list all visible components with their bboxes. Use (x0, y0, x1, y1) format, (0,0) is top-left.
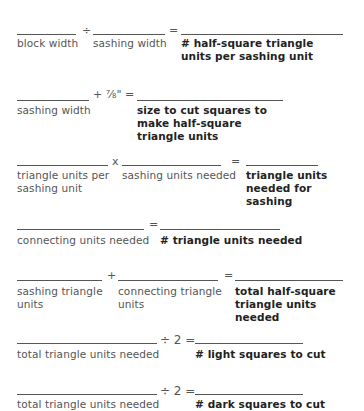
label-total-triangle-units: total half-square triangle units needed (235, 285, 355, 324)
blank-total-units-dark[interactable] (17, 394, 157, 395)
cropped-heading (17, 0, 117, 3)
label-sashing-width-2: sashing width (17, 104, 91, 117)
label-sashing-units-needed: sashing units needed (122, 169, 236, 182)
blank-block-width[interactable] (17, 34, 76, 35)
label-triangle-units-needed: # triangle units needed (160, 234, 302, 247)
plus-operator: + (107, 270, 116, 281)
blank-triangle-units-for-sashing[interactable] (246, 165, 318, 166)
label-connecting-units: connecting units needed (17, 234, 149, 247)
blank-light-squares[interactable] (195, 343, 303, 344)
divide-by-two-operator: ÷ 2 = (160, 385, 195, 397)
label-sashing-width: sashing width (93, 37, 167, 50)
equals-operator: = (169, 25, 178, 36)
label-block-width: block width (17, 37, 78, 50)
blank-total-triangle-units[interactable] (235, 280, 343, 281)
label-cut-size: size to cut squares to make half-square … (137, 104, 287, 143)
label-total-units-light: total triangle units needed (17, 348, 159, 361)
blank-dark-squares[interactable] (195, 394, 303, 395)
plus-seven-eighths-operator: + ⅞" = (93, 89, 134, 100)
blank-sashing-triangle-units[interactable] (17, 280, 102, 281)
blank-total-units-light[interactable] (17, 343, 157, 344)
blank-triangle-units-needed[interactable] (160, 229, 280, 230)
multiply-operator: x (112, 156, 119, 167)
label-units-per-sashing: # half-square triangle units per sashing… (181, 37, 346, 63)
blank-sashing-units-needed[interactable] (122, 165, 221, 166)
blank-connecting-triangle-units[interactable] (118, 280, 218, 281)
blank-sashing-width-2[interactable] (17, 100, 89, 101)
equals-operator: = (231, 156, 240, 167)
label-dark-squares: # dark squares to cut (195, 398, 325, 411)
equals-operator: = (224, 270, 233, 281)
equals-operator: = (149, 219, 158, 230)
blank-connecting-units[interactable] (17, 229, 144, 230)
blank-sashing-width[interactable] (93, 34, 165, 35)
label-total-units-dark: total triangle units needed (17, 398, 159, 411)
label-light-squares: # light squares to cut (195, 348, 326, 361)
label-units-per-sashing-2: triangle units per sashing unit (17, 169, 112, 195)
divide-by-two-operator: ÷ 2 = (160, 334, 195, 346)
divide-operator: ÷ (82, 25, 91, 36)
label-connecting-triangle-units: connecting triangle units (118, 285, 223, 311)
label-sashing-triangle-units: sashing triangle units (17, 285, 107, 311)
blank-units-per-sashing[interactable] (181, 34, 343, 35)
blank-units-per-sashing-2[interactable] (17, 165, 108, 166)
label-triangle-units-for-sashing: triangle units needed for sashing (246, 169, 356, 208)
blank-cut-size[interactable] (137, 100, 283, 101)
